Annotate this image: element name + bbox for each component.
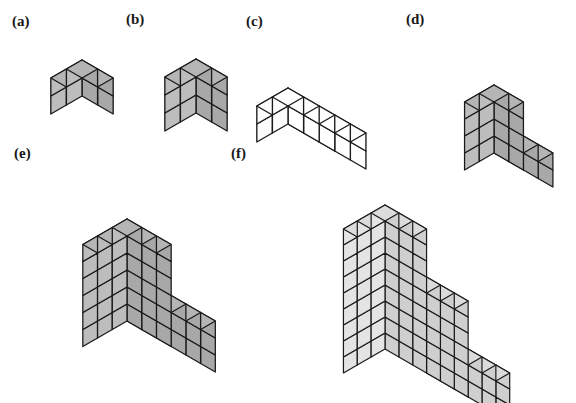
figure-label-f: (f) (231, 146, 246, 161)
figure-board: (a)(b)(c)(d)(e)(f) (0, 0, 576, 403)
figure-label-b: (b) (126, 12, 144, 27)
figure-label-e: (e) (14, 146, 31, 161)
figure-label-c: (c) (246, 14, 263, 29)
figure-label-d: (d) (406, 12, 424, 27)
figure-label-a: (a) (12, 14, 30, 29)
solid-f (0, 0, 576, 403)
